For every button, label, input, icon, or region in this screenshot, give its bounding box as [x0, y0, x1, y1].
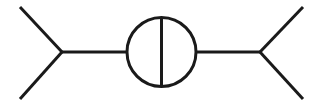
schematic-svg — [0, 0, 323, 106]
left-fork-upper-arm-line — [20, 7, 62, 52]
left-fork-lower-arm-line — [20, 52, 62, 99]
right-fork-upper-arm-line — [260, 7, 303, 52]
diagram-canvas — [0, 0, 323, 106]
right-fork-lower-arm-line — [260, 52, 303, 99]
